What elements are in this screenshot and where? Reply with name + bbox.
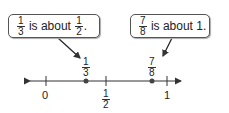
label-seven-eighths: 7 8: [148, 57, 156, 78]
callout-one-third: 1 3 is about 1 2 .: [8, 14, 100, 38]
point-one-third: [84, 79, 89, 84]
label-one-half: 1 2: [102, 89, 110, 110]
arrow-right-callout: [163, 38, 172, 56]
callout-text: is about: [26, 19, 75, 33]
period: .: [84, 19, 87, 33]
label-one: 1: [164, 89, 170, 101]
fraction-seven-eighths: 7 8: [139, 16, 147, 37]
arrow-left-callout: [58, 38, 80, 58]
point-seven-eighths: [150, 79, 155, 84]
fraction-one-third: 1 3: [17, 16, 25, 37]
label-zero: 0: [42, 89, 48, 101]
callout-text: is about 1.: [148, 19, 207, 33]
fraction-one-half: 1 2: [75, 16, 83, 37]
label-one-third: 1 3: [82, 57, 90, 78]
callout-seven-eighths: 7 8 is about 1.: [130, 14, 210, 38]
